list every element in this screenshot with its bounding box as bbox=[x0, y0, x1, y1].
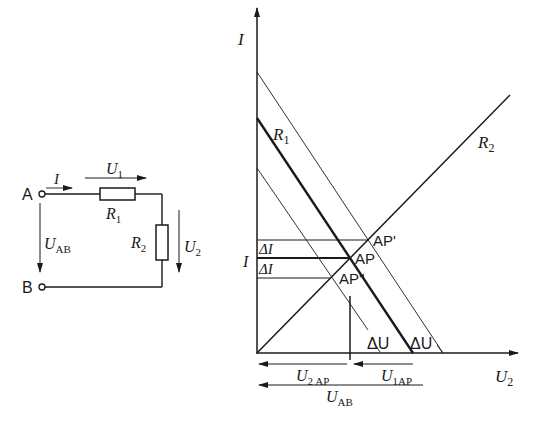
u1ap-label: U1AP bbox=[381, 367, 412, 387]
operating-point-prime-label: AP' bbox=[373, 232, 396, 249]
delta-u-right-label: ΔU bbox=[410, 335, 432, 352]
terminal-b-node bbox=[39, 284, 45, 290]
y-axis-label: I bbox=[237, 30, 245, 49]
u1-label: U1 bbox=[106, 160, 123, 180]
r2-label: R2 bbox=[130, 234, 146, 254]
delta-i-lower-label: ΔI bbox=[258, 261, 274, 277]
iu-graph: I U2 R2 R1 ΔI ΔI I AP' AP AP'' ΔU ΔU U2 … bbox=[237, 8, 518, 408]
resistor-r1 bbox=[100, 188, 135, 200]
r1-shifted-lower-line bbox=[257, 168, 368, 330]
delta-i-upper-label: ΔI bbox=[258, 241, 274, 257]
uab-graph-label: UAB bbox=[326, 388, 353, 408]
r1-graph-label: R1 bbox=[272, 125, 289, 147]
operating-point-label: AP bbox=[355, 250, 375, 267]
operating-point-double-prime-label: AP'' bbox=[339, 270, 365, 287]
delta-u-right-leader bbox=[437, 345, 442, 352]
current-label: I bbox=[53, 171, 60, 187]
terminal-a-label: A bbox=[22, 186, 33, 203]
r2-graph-label: R2 bbox=[477, 133, 494, 155]
u2ap-label: U2 AP bbox=[296, 367, 329, 387]
x-axis-label: U2 bbox=[495, 367, 513, 389]
delta-u-left-label: ΔU bbox=[367, 335, 389, 352]
terminal-a-node bbox=[39, 191, 45, 197]
uab-label: UAB bbox=[44, 235, 71, 255]
u2-label: U2 bbox=[184, 238, 201, 258]
terminal-b-label: B bbox=[22, 279, 33, 296]
circuit-schematic: A B I U1 R1 R2 U2 UAB bbox=[22, 160, 201, 296]
diagram-canvas: A B I U1 R1 R2 U2 UAB I bbox=[0, 0, 537, 430]
current-i-label: I bbox=[242, 253, 249, 270]
r1-label: R1 bbox=[105, 205, 121, 225]
resistor-r2 bbox=[156, 225, 168, 260]
